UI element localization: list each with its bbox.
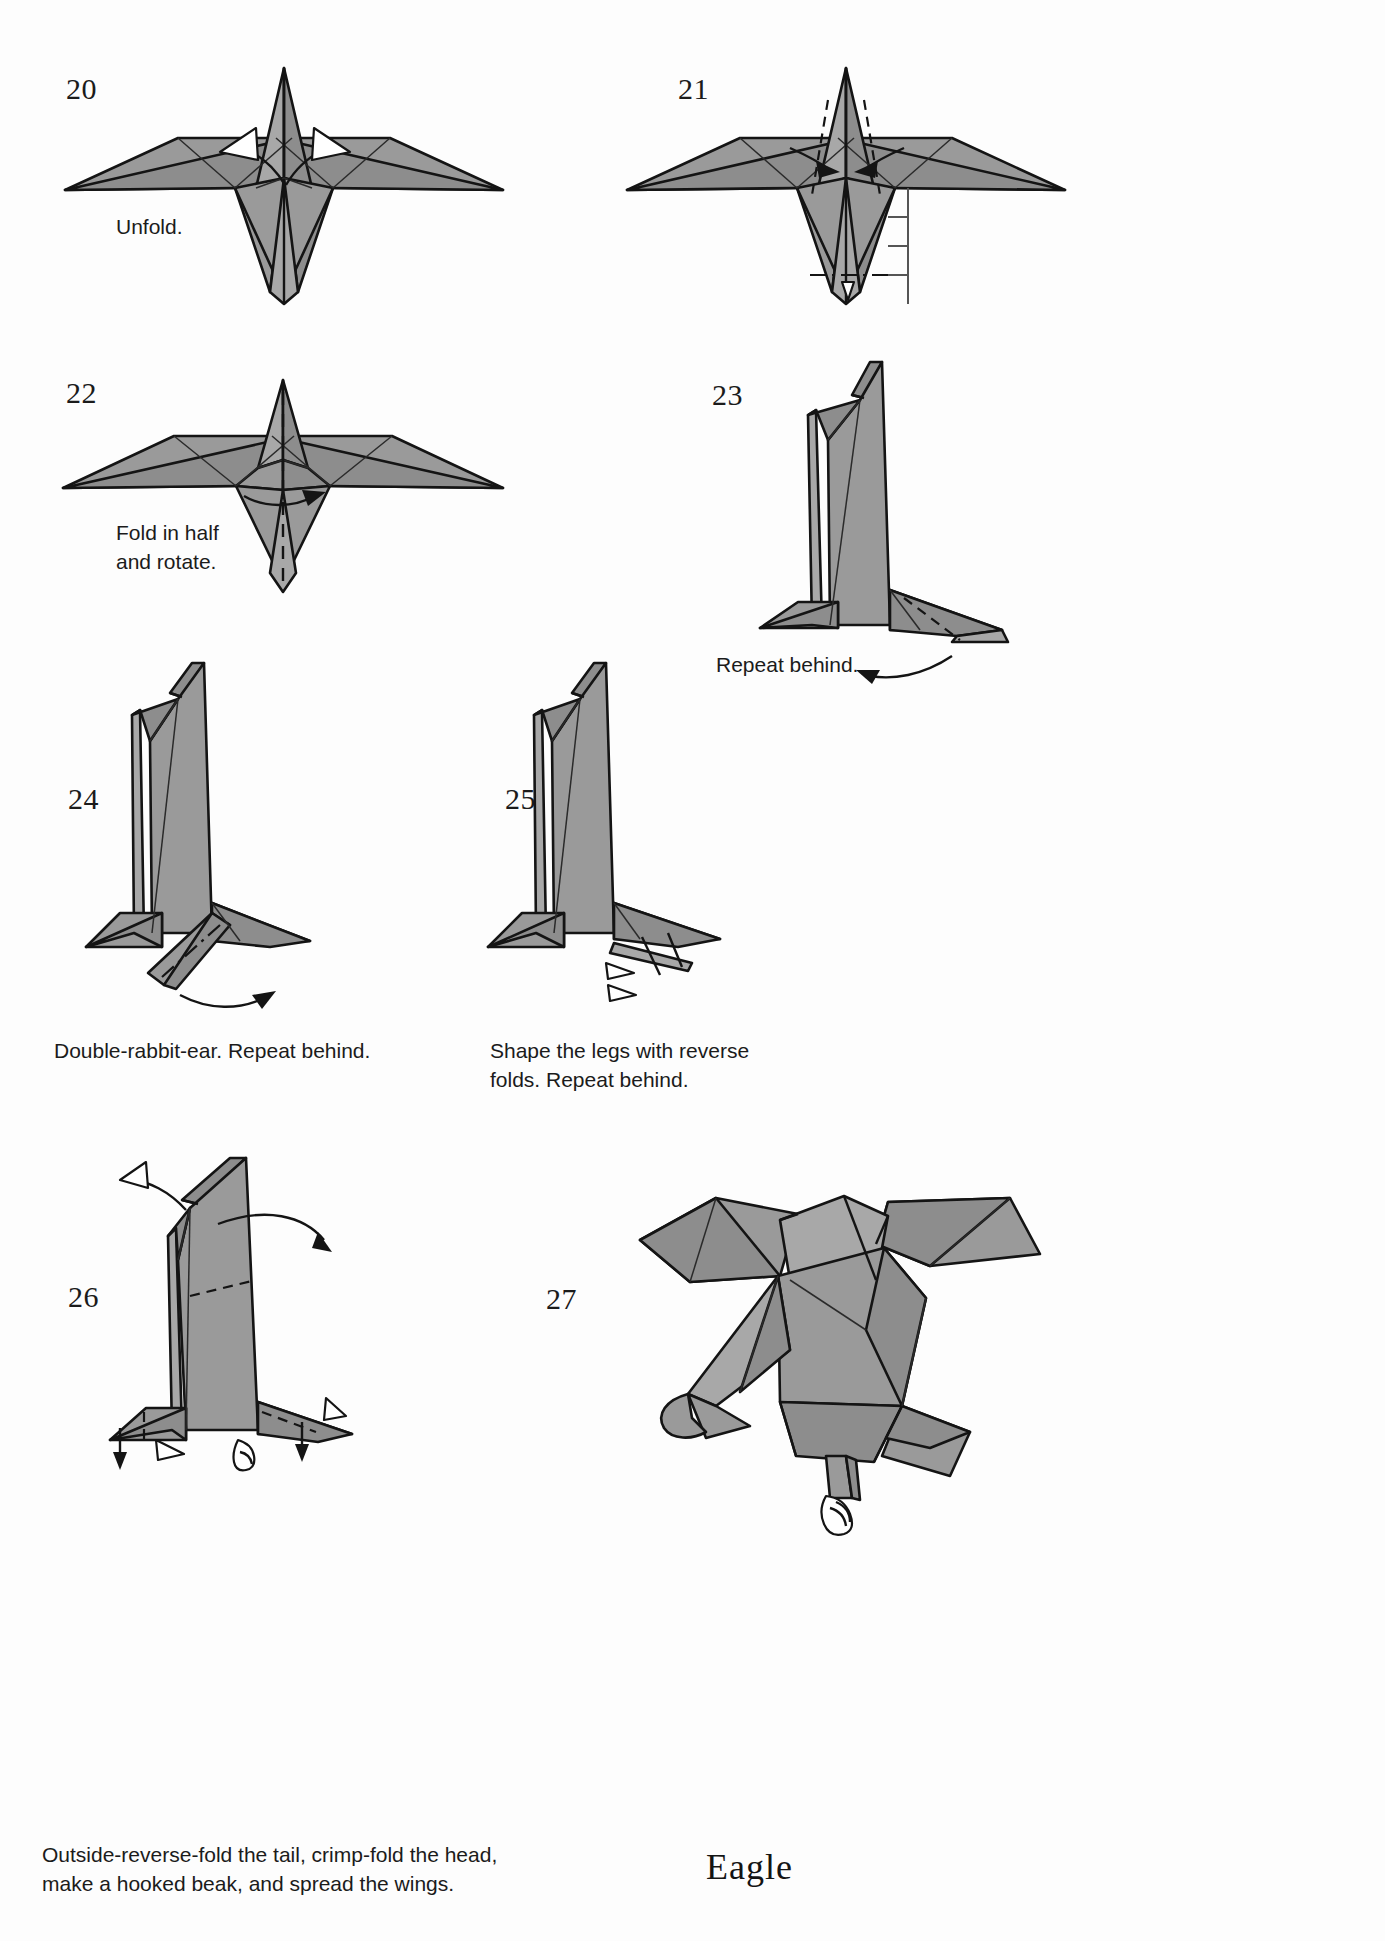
diagram-page: 20 Unfold. 21: [0, 0, 1385, 1941]
head-crimp-arrow: [120, 1162, 186, 1210]
claw-shapes: [234, 1440, 255, 1470]
reverse-fold-arrow-b: [608, 985, 636, 1001]
figure-step-20: [60, 60, 520, 310]
repeat-behind-arrow: [856, 656, 952, 684]
figure-step-26: [90, 1140, 420, 1510]
caption-step-24: Double-rabbit-ear. Repeat behind.: [54, 1036, 370, 1065]
caption-step-26: Outside-reverse-fold the tail, crimp-fol…: [42, 1840, 497, 1898]
step-number-27: 27: [546, 1282, 577, 1316]
figure-step-24: [80, 655, 380, 1015]
measurement-ruler: [888, 188, 908, 304]
model-name-label: Eagle: [706, 1846, 793, 1888]
repeat-behind-arrow-24: [180, 991, 276, 1009]
figure-step-27-eagle: [630, 1180, 1050, 1560]
talon-shapes: [821, 1496, 852, 1535]
caption-step-20: Unfold.: [116, 212, 183, 241]
figure-step-23: [752, 340, 1052, 660]
caption-step-25: Shape the legs with reverse folds. Repea…: [490, 1036, 749, 1094]
figure-step-25: [482, 655, 782, 1015]
caption-step-22: Fold in half and rotate.: [116, 518, 219, 576]
figure-step-21: [622, 60, 1072, 310]
reverse-fold-arrow-a: [606, 963, 634, 979]
step-number-23: 23: [712, 378, 743, 412]
